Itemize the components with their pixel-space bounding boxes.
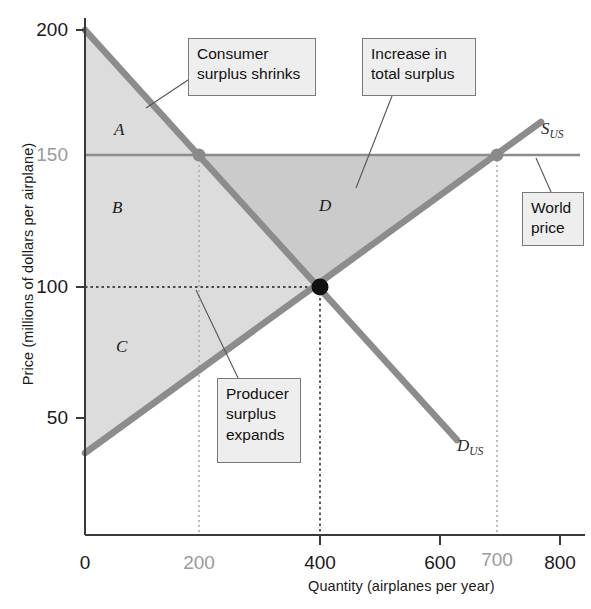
leader-world-price bbox=[536, 158, 551, 192]
region-label-c: C bbox=[116, 337, 127, 357]
supply-curve-label-sub: US bbox=[550, 128, 564, 140]
y-tick-label-200: 200 bbox=[4, 19, 68, 41]
leader-consumer-surplus bbox=[146, 80, 188, 108]
x-tick-label-700: 700 bbox=[467, 549, 527, 571]
x-tick-label-400: 400 bbox=[290, 552, 350, 574]
x-tick-label-200: 200 bbox=[169, 552, 229, 574]
demand-curve-label-sub: US bbox=[469, 445, 483, 457]
x-tick-label-600: 600 bbox=[410, 552, 470, 574]
region-label-d: D bbox=[319, 196, 331, 216]
callout-world-price: World price bbox=[522, 192, 584, 246]
region-label-b: B bbox=[112, 198, 122, 218]
supply-curve-label-main: S bbox=[541, 119, 550, 138]
x-tick-label-800: 800 bbox=[530, 552, 590, 574]
region-label-a: A bbox=[114, 120, 124, 140]
callout-consumer-surplus: Consumer surplus shrinks bbox=[188, 38, 316, 96]
x-axis-title: Quantity (airplanes per year) bbox=[308, 578, 495, 594]
supply-curve-label: SUS bbox=[541, 119, 564, 140]
y-tick-label-150: 150 bbox=[4, 144, 68, 166]
y-tick-label-100: 100 bbox=[4, 276, 68, 298]
callout-total-surplus: Increase in total surplus bbox=[362, 38, 476, 96]
demand-curve-label-main: D bbox=[457, 436, 469, 455]
economics-surplus-chart: Price (millions of dollars per airplane)… bbox=[0, 0, 591, 609]
marker-q200 bbox=[193, 149, 206, 162]
marker-equilibrium bbox=[312, 279, 329, 296]
x-tick-label-0: 0 bbox=[55, 552, 115, 574]
callout-producer-surplus: Producer surplus expands bbox=[217, 378, 301, 463]
demand-curve-label: DUS bbox=[457, 436, 483, 457]
y-tick-label-50: 50 bbox=[4, 407, 68, 429]
marker-q700 bbox=[491, 149, 504, 162]
